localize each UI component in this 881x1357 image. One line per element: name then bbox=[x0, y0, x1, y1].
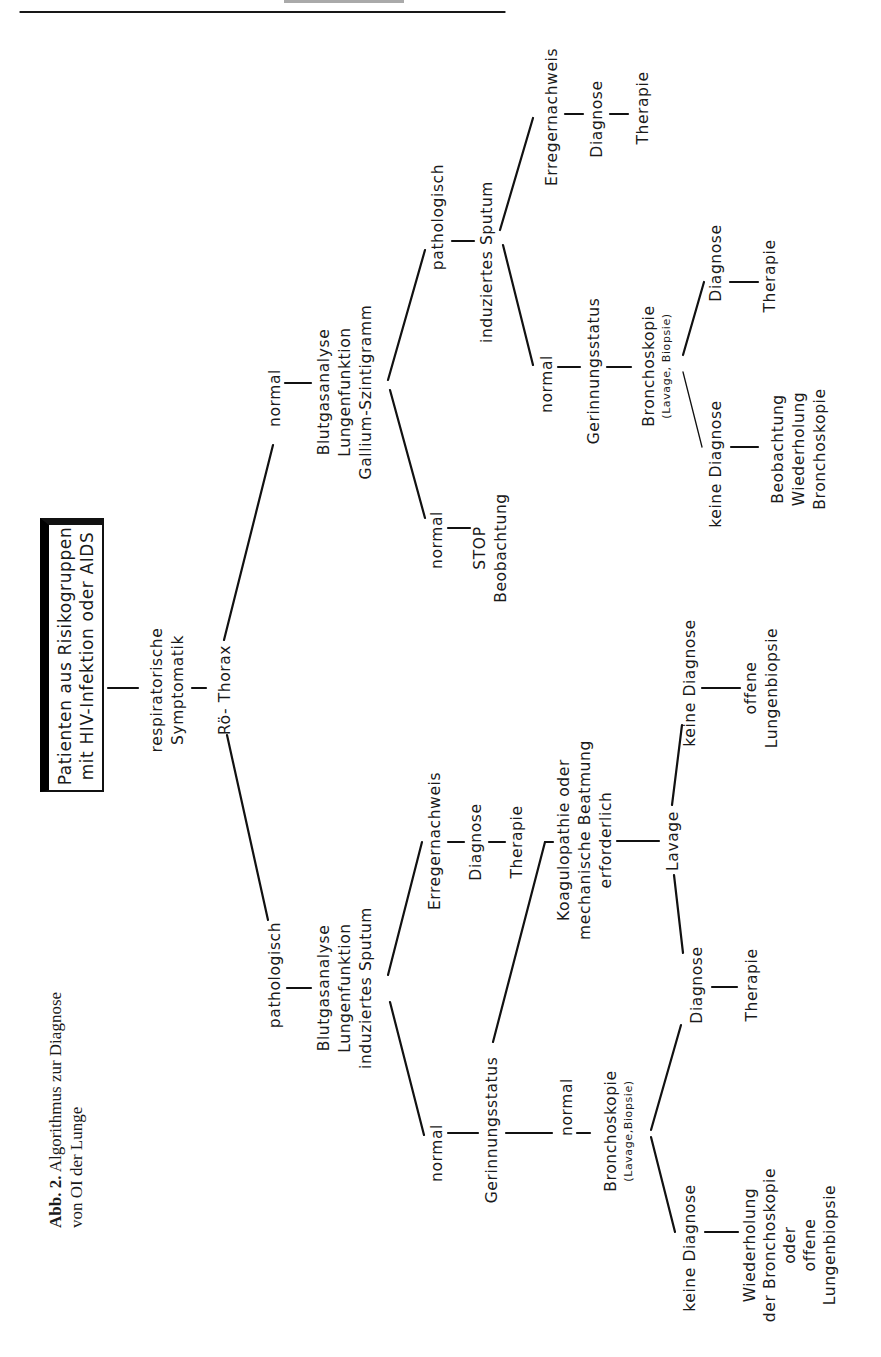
node-line: Bronchoskopie bbox=[810, 388, 831, 509]
node-line: Blutgasanalyse bbox=[314, 907, 335, 1069]
node-diagnosis: Diagnose bbox=[587, 80, 608, 157]
node-line: Wiederholung bbox=[789, 388, 810, 509]
node-lower-therapy: Therapie bbox=[507, 805, 528, 878]
node-broncho-no-diagnosis: keine Diagnose bbox=[706, 400, 727, 527]
node-lavage-diagnosis: Diagnose bbox=[687, 946, 708, 1023]
node-subline: (Lavage, Biopsie) bbox=[660, 305, 674, 426]
node-line: Koagulopathie oder bbox=[554, 740, 575, 940]
node-line: Beobachtung bbox=[491, 493, 512, 603]
node-line: Blutgasanalyse bbox=[314, 305, 335, 480]
node-tests-normal: normal bbox=[427, 511, 448, 569]
node-stop-observation: STOP Beobachtung bbox=[470, 493, 512, 603]
node-lower-normal: normal bbox=[427, 1124, 448, 1182]
node-repeat-or-biopsy: Wiederholung der Bronchoskopie oder offe… bbox=[740, 1168, 840, 1322]
node-respiratory-symptoms: respiratorische Symptomatik bbox=[147, 628, 189, 753]
node-lavage-no-diagnosis: keine Diagnose bbox=[680, 619, 701, 746]
node-line: oder bbox=[780, 1168, 800, 1322]
node-tests-lower: Blutgasanalyse Lungenfunktion induzierte… bbox=[314, 907, 377, 1069]
node-lavage-open-biopsy: offene Lungenbiopsie bbox=[741, 628, 783, 748]
node-lower-coag-status: Gerinnungsstatus bbox=[482, 1057, 503, 1204]
node-xray-normal: normal bbox=[265, 369, 286, 427]
node-lower-pathogen: Erregernachweis bbox=[425, 772, 446, 910]
node-line: Symptomatik bbox=[168, 628, 189, 753]
node-line: Wiederholung bbox=[740, 1168, 760, 1322]
node-pathogen-found: Erregernachweis bbox=[542, 48, 563, 186]
node-coagulopathy: Koagulopathie oder mechanische Beatmung … bbox=[554, 740, 617, 940]
node-tests-pathologic: pathologisch bbox=[428, 164, 449, 270]
node-coag-normal: normal bbox=[557, 1078, 578, 1136]
node-coagulation-status: Gerinnungsstatus bbox=[584, 298, 605, 445]
node-therapy: Therapie bbox=[633, 71, 654, 144]
node-line: Lungenbiopsie bbox=[762, 628, 783, 748]
node-xray-pathologic: pathologisch bbox=[265, 922, 286, 1028]
node-lower-diagnosis: Diagnose bbox=[466, 803, 487, 880]
caption-label: Abb. 2. bbox=[46, 1176, 65, 1228]
node-line: Bronchoskopie bbox=[601, 1070, 622, 1191]
node-line: Bronchoskopie bbox=[639, 305, 660, 426]
node-induced-sputum: induziertes Sputum bbox=[477, 181, 498, 343]
node-line: Gallium-Szintigramm bbox=[356, 305, 377, 480]
node-line: induziertes Sputum bbox=[356, 907, 377, 1069]
title-box-text: Patienten aus Risikogruppen mit HIV-Infe… bbox=[54, 527, 98, 786]
caption-line2: von OI der Lunge bbox=[66, 992, 87, 1228]
title-line2: mit HIV-Infektion oder AIDS bbox=[76, 527, 98, 786]
node-tests-upper: Blutgasanalyse Lungenfunktion Gallium-Sz… bbox=[314, 305, 377, 480]
title-line1: Patienten aus Risikogruppen bbox=[54, 527, 76, 786]
node-line: Lungenfunktion bbox=[335, 305, 356, 480]
node-subline: (Lavage,Biopsie) bbox=[622, 1070, 636, 1191]
figure-caption: Abb. 2. Algorithmus zur Diagnose von OI … bbox=[45, 992, 87, 1228]
node-line: der Bronchoskopie bbox=[760, 1168, 780, 1322]
node-line: respiratorische bbox=[147, 628, 168, 753]
node-bronchoscopy: Bronchoskopie (Lavage, Biopsie) bbox=[639, 305, 674, 426]
node-lower-bronchoscopy: Bronchoskopie (Lavage,Biopsie) bbox=[601, 1070, 636, 1191]
node-broncho-therapy: Therapie bbox=[760, 239, 781, 312]
node-line: mechanische Beatmung bbox=[575, 740, 596, 940]
node-line: erforderlich bbox=[596, 740, 617, 940]
node-line: offene bbox=[741, 628, 762, 748]
node-lavage: Lavage bbox=[663, 811, 684, 871]
node-line: Beobachtung bbox=[768, 388, 789, 509]
node-lavage-therapy: Therapie bbox=[742, 948, 763, 1021]
node-line: Lungenbiopsie bbox=[820, 1168, 840, 1322]
node-line: STOP bbox=[470, 493, 491, 603]
node-followup: Beobachtung Wiederholung Bronchoskopie bbox=[768, 388, 831, 509]
node-xray-thorax: Rö- Thorax bbox=[215, 645, 236, 735]
caption-line1: Algorithmus zur Diagnose bbox=[46, 992, 65, 1172]
node-line: Lungenfunktion bbox=[335, 907, 356, 1069]
node-line: offene bbox=[800, 1168, 820, 1322]
node-sputum-normal: normal bbox=[537, 355, 558, 413]
node-broncho-diagnosis: Diagnose bbox=[706, 224, 727, 301]
node-lower-broncho-no-diagnosis: keine Diagnose bbox=[680, 1184, 701, 1311]
